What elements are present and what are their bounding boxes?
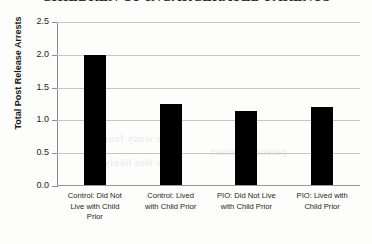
x-axis-category-label-line: Prior	[51, 212, 139, 223]
y-axis-tick-label: 0.0	[0, 180, 49, 190]
x-axis-category-label: PIO: Lived withChild Prior	[278, 191, 366, 212]
y-axis-tick-label: 2.5	[0, 16, 49, 26]
y-axis-tick-label: 2.0	[0, 49, 49, 59]
chart-title: CHILDREN OF INCARCERATED PARENTS	[0, 0, 372, 5]
bar	[84, 55, 106, 186]
x-axis-baseline	[57, 185, 360, 186]
x-axis-category-label-line: Child Prior	[278, 202, 366, 213]
x-axis-category-label-line: PIO: Lived with	[278, 191, 366, 202]
gridline	[57, 22, 360, 23]
chart-page: the study found were less likely parenta…	[0, 0, 372, 244]
y-axis-tick-mark	[52, 186, 57, 187]
y-axis-tick-label: 1.0	[0, 114, 49, 124]
y-axis-tick-label: 1.5	[0, 82, 49, 92]
plot-area	[57, 22, 360, 186]
bar	[235, 111, 257, 186]
y-axis-tick-label: 0.5	[0, 147, 49, 157]
bar	[311, 107, 333, 186]
bar	[160, 104, 182, 186]
